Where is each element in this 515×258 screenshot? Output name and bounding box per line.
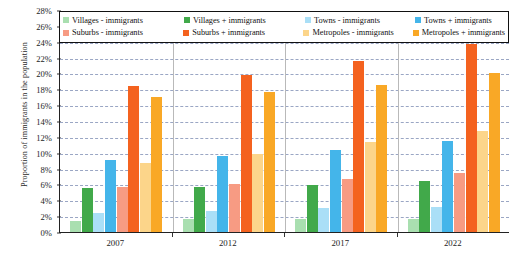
bar[interactable] — [117, 187, 128, 232]
bar[interactable] — [264, 92, 275, 232]
x-tick-label: 2022 — [444, 238, 462, 248]
y-tick-label: 14% — [0, 117, 52, 127]
x-tick-mark — [172, 233, 173, 237]
legend-label: Suburbs + immigrants — [192, 28, 265, 37]
bar[interactable] — [217, 156, 228, 232]
bar-group — [173, 11, 286, 232]
legend-item[interactable]: Towns + immigrants — [415, 16, 492, 25]
bar[interactable] — [93, 213, 104, 232]
legend-swatch-icon — [413, 30, 419, 36]
bar[interactable] — [128, 86, 139, 232]
legend-label: Towns - immigrants — [314, 16, 380, 25]
y-tick-label: 28% — [0, 6, 52, 16]
bar[interactable] — [82, 188, 93, 232]
y-tick-label: 8% — [0, 165, 52, 175]
x-tick-mark — [397, 233, 398, 237]
y-tick-label: 10% — [0, 149, 52, 159]
bar-group — [398, 11, 510, 232]
y-tick-label: 20% — [0, 69, 52, 79]
chart-root: Proportion of immigrants in the populati… — [0, 0, 515, 258]
legend-label: Suburbs - immigrants — [72, 28, 143, 37]
legend-item[interactable]: Towns - immigrants — [305, 16, 415, 25]
legend-label: Villages + immigrants — [193, 16, 266, 25]
y-tick-label: 4% — [0, 196, 52, 206]
y-tick-label: 12% — [0, 133, 52, 143]
bar[interactable] — [489, 73, 500, 232]
bar[interactable] — [431, 207, 442, 232]
y-tick-label: 2% — [0, 212, 52, 222]
plot-area — [59, 11, 509, 233]
legend-item[interactable]: Villages + immigrants — [184, 16, 305, 25]
legend-label: Metropoles + immigrants — [422, 28, 505, 37]
y-tick-label: 6% — [0, 180, 52, 190]
bar[interactable] — [241, 75, 252, 232]
legend-item[interactable]: Metropoles - immigrants — [303, 28, 412, 37]
plot-inner — [60, 11, 509, 232]
legend-row: Villages - immigrants Villages + immigra… — [63, 14, 505, 27]
legend-item[interactable]: Metropoles + immigrants — [413, 28, 505, 37]
bar[interactable] — [342, 179, 353, 232]
y-tick-label: 22% — [0, 54, 52, 64]
legend-row: Suburbs - immigrants Suburbs + immigrant… — [63, 27, 505, 40]
bar[interactable] — [466, 44, 477, 232]
x-tick-label: 2017 — [331, 238, 349, 248]
y-tick-label: 24% — [0, 38, 52, 48]
bar[interactable] — [353, 61, 364, 232]
y-tick-label: 26% — [0, 22, 52, 32]
legend-swatch-icon — [183, 30, 189, 36]
bar[interactable] — [194, 187, 205, 232]
bar[interactable] — [442, 141, 453, 232]
legend-label: Metropoles - immigrants — [312, 28, 393, 37]
bar[interactable] — [330, 150, 341, 232]
legend-label: Towns + immigrants — [424, 16, 492, 25]
x-tick-label: 2007 — [106, 238, 124, 248]
bar-group — [285, 11, 398, 232]
legend-item[interactable]: Villages - immigrants — [63, 16, 184, 25]
bar[interactable] — [454, 173, 465, 232]
bar[interactable] — [151, 97, 162, 232]
legend-label: Villages - immigrants — [72, 16, 143, 25]
bar[interactable] — [206, 211, 217, 232]
bar[interactable] — [70, 221, 81, 232]
bar[interactable] — [318, 208, 329, 232]
chart-legend: Villages - immigrants Villages + immigra… — [59, 11, 509, 43]
bar[interactable] — [376, 85, 387, 232]
bar[interactable] — [295, 219, 306, 232]
bar[interactable] — [365, 142, 376, 232]
x-tick-label: 2012 — [219, 238, 237, 248]
y-tick-label: 18% — [0, 85, 52, 95]
x-tick-mark — [284, 233, 285, 237]
bar[interactable] — [229, 184, 240, 232]
bar[interactable] — [307, 185, 318, 232]
bar[interactable] — [140, 163, 151, 232]
legend-swatch-icon — [415, 17, 421, 23]
legend-item[interactable]: Suburbs - immigrants — [63, 28, 183, 37]
legend-swatch-icon — [305, 17, 311, 23]
legend-swatch-icon — [184, 17, 190, 23]
y-tick-label: 16% — [0, 101, 52, 111]
legend-swatch-icon — [63, 30, 69, 36]
bar[interactable] — [105, 160, 116, 232]
legend-swatch-icon — [303, 30, 309, 36]
y-tick-label: 0% — [0, 228, 52, 238]
bar[interactable] — [419, 181, 430, 232]
legend-item[interactable]: Suburbs + immigrants — [183, 28, 303, 37]
legend-swatch-icon — [63, 17, 69, 23]
bar[interactable] — [252, 154, 263, 232]
bar-group — [60, 11, 173, 232]
bar[interactable] — [408, 219, 419, 232]
bar[interactable] — [477, 131, 488, 232]
bar[interactable] — [183, 219, 194, 232]
